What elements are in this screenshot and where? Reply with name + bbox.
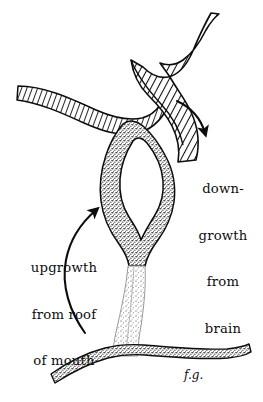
- label-downgrowth-line-4: brain: [184, 321, 262, 337]
- label-downgrowth-line-3: from: [184, 274, 262, 290]
- label-downgrowth: down- growth from brain: [184, 150, 262, 367]
- label-upgrowth: upgrowth from roof of mouth: [8, 229, 120, 400]
- label-upgrowth-line-3: of mouth: [8, 353, 120, 369]
- label-upgrowth-line-1: upgrowth: [8, 260, 120, 276]
- figure-canvas: f.g. down- growth from brain upgrowth fr…: [0, 0, 263, 402]
- label-downgrowth-line-2: growth: [184, 228, 262, 244]
- label-upgrowth-line-2: from roof: [8, 307, 120, 323]
- signature-text: f.g.: [183, 368, 203, 382]
- artist-signature: f.g.: [183, 368, 203, 382]
- label-downgrowth-line-1: down-: [184, 181, 262, 197]
